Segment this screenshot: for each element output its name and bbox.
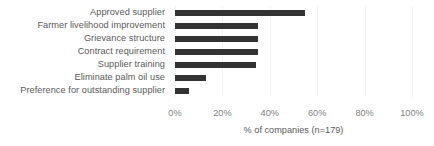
x-tick-label: 100%	[400, 106, 424, 120]
bar-row	[175, 19, 412, 32]
bar-row	[175, 45, 412, 58]
bar-series	[175, 6, 412, 97]
value-axis: 0%20%40%60%80%100%	[175, 106, 412, 120]
x-tick-label: 60%	[308, 106, 326, 120]
bar	[175, 88, 189, 94]
bar	[175, 75, 206, 81]
x-tick-label: 20%	[213, 106, 231, 120]
x-tick-label: 80%	[355, 106, 373, 120]
category-label: Preference for outstanding supplier	[0, 84, 170, 97]
bar-row	[175, 71, 412, 84]
bar-row	[175, 58, 412, 71]
category-label: Farmer livelihood improvement	[0, 19, 170, 32]
category-label: Contract requirement	[0, 45, 170, 58]
gridline	[412, 6, 413, 97]
bar	[175, 23, 258, 29]
bar	[175, 62, 256, 68]
horizontal-bar-chart: Approved supplierFarmer livelihood impro…	[0, 0, 434, 146]
bar-row	[175, 32, 412, 45]
category-label: Eliminate palm oil use	[0, 71, 170, 84]
x-tick-label: 40%	[261, 106, 279, 120]
category-label: Grievance structure	[0, 32, 170, 45]
bar-row	[175, 6, 412, 19]
x-tick-label: 0%	[168, 106, 181, 120]
bar	[175, 36, 258, 42]
bar	[175, 10, 305, 16]
plot-area	[175, 6, 412, 97]
category-label: Approved supplier	[0, 6, 170, 19]
bar-row	[175, 84, 412, 97]
category-label: Supplier training	[0, 58, 170, 71]
bar	[175, 49, 258, 55]
category-axis: Approved supplierFarmer livelihood impro…	[0, 6, 170, 97]
x-axis-title: % of companies (n=179)	[175, 125, 412, 135]
